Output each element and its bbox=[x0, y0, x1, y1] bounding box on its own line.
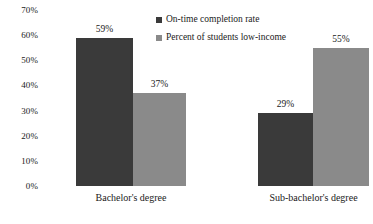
legend-item-percent-low-income[interactable]: Percent of students low-income bbox=[156, 32, 286, 43]
bar-bachelors-on-time[interactable]: 59% bbox=[76, 38, 133, 186]
y-axis-tick-label: 40% bbox=[0, 80, 38, 90]
bar-sub-bachelors-on-time[interactable]: 29% bbox=[258, 113, 313, 186]
legend-swatch-icon bbox=[156, 17, 162, 23]
bar-sub-bachelors-low-income[interactable]: 55% bbox=[313, 48, 369, 186]
bar-value-label: 37% bbox=[151, 79, 168, 90]
y-axis-tick-label: 70% bbox=[0, 5, 38, 15]
legend-item-label: Percent of students low-income bbox=[166, 32, 286, 43]
y-axis-tick-label: 60% bbox=[0, 30, 38, 40]
bar-value-label: 55% bbox=[332, 34, 349, 45]
legend-item-on-time-completion-rate[interactable]: On-time completion rate bbox=[156, 14, 286, 25]
bar-value-label: 59% bbox=[96, 24, 113, 35]
bar-bachelors-low-income[interactable]: 37% bbox=[133, 93, 186, 186]
legend-swatch-icon bbox=[156, 35, 162, 41]
y-axis-tick-label: 10% bbox=[0, 156, 38, 166]
x-axis-category-label-bachelors: Bachelor's degree bbox=[76, 192, 186, 204]
bar-value-label: 29% bbox=[277, 99, 294, 110]
axis-baseline bbox=[44, 186, 373, 187]
y-axis: 70% 60% 50% 40% 30% 20% 10% 0% bbox=[0, 0, 44, 224]
legend-item-label: On-time completion rate bbox=[166, 14, 259, 25]
chart-legend: On-time completion rate Percent of stude… bbox=[156, 14, 286, 50]
y-axis-tick-label: 0% bbox=[0, 181, 38, 191]
x-axis-category-label-sub-bachelors: Sub-bachelor's degree bbox=[258, 192, 369, 204]
bar-chart: 70% 60% 50% 40% 30% 20% 10% 0% 59% 37% bbox=[0, 0, 373, 224]
y-axis-tick-label: 50% bbox=[0, 55, 38, 65]
y-axis-tick-label: 20% bbox=[0, 131, 38, 141]
y-axis-tick-label: 30% bbox=[0, 106, 38, 116]
